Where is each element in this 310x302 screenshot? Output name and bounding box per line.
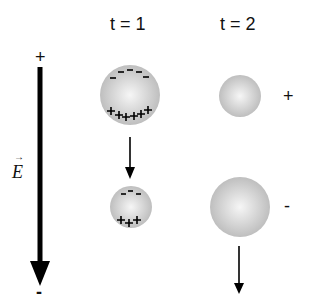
electric-field-arrow [30,67,50,286]
field-top-sign: + [35,48,46,66]
t2-lower-charge-sign: - [284,197,290,215]
t1-lower-sphere [110,186,152,228]
column-label-t2: t = 2 [220,14,256,35]
field-bottom-sign: - [36,283,42,301]
t2-arrow [234,246,244,294]
t1-arrow [125,137,135,179]
column-label-t1: t = 1 [110,14,146,35]
diagram-canvas [0,0,310,302]
field-label-text: E [12,162,23,182]
field-label: → E [12,162,23,183]
t2-upper-charge-sign: + [283,87,294,105]
t2-lower-sphere [210,177,270,237]
vector-arrow-icon: → [14,151,24,162]
t2-upper-sphere [219,75,261,117]
